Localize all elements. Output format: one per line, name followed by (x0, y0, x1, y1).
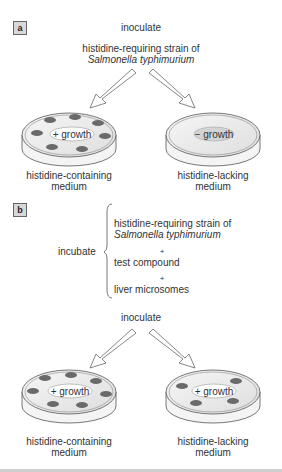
arrow-left-icon (90, 329, 136, 368)
caption-a-left-line2: medium (14, 181, 124, 192)
ingredient-liver-microsomes: liver microsomes (114, 284, 189, 295)
growth-label-a-right: − growth (192, 129, 236, 140)
caption-b-left-line2: medium (14, 447, 124, 458)
brace-icon (104, 204, 112, 298)
plus-sign-1: + (155, 246, 169, 257)
arrow-left-icon (90, 69, 136, 108)
growth-label-b-right: + growth (192, 386, 236, 397)
caption-a-left-line1: histidine-containing (14, 170, 124, 181)
ingredient-strain-line2: Salmonella typhimurium (114, 229, 221, 240)
step-inoculate-a: inoculate (91, 22, 191, 33)
caption-a-right-line1: histidine-lacking (158, 170, 268, 181)
caption-b-right-line2: medium (158, 447, 268, 458)
panel-tag-b: b (13, 203, 27, 217)
arrow-right-icon (149, 69, 195, 108)
growth-label-a-left: + growth (50, 129, 94, 140)
strain-label-a-line1: histidine-requiring strain of (61, 43, 221, 54)
ingredient-test-compound: test compound (114, 257, 180, 268)
caption-a-right-line2: medium (158, 181, 268, 192)
panel-tag-a: a (13, 21, 27, 35)
caption-b-left-line1: histidine-containing (14, 436, 124, 447)
step-incubate: incubate (58, 246, 102, 257)
arrow-right-icon (149, 329, 195, 368)
growth-label-b-left: + growth (48, 386, 92, 397)
caption-b-right-line1: histidine-lacking (158, 436, 268, 447)
plus-sign-2: + (155, 273, 169, 284)
ingredient-strain-line1: histidine-requiring strain of (114, 218, 231, 229)
step-inoculate-b: inoculate (91, 312, 191, 323)
strain-label-a-line2: Salmonella typhimurium (61, 54, 221, 65)
